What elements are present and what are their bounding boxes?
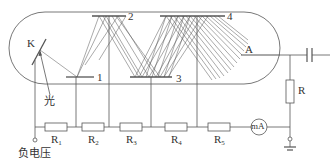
resistor-r5 — [208, 123, 230, 131]
pmt-diagram: K 1 2 3 4 A 光 负电压 R mA R1 R2 R3 R4 R5 — [0, 0, 332, 164]
dynode-1-label: 1 — [97, 72, 103, 83]
resistor-r5-label: R5 — [214, 134, 225, 147]
negative-voltage-label: 负电压 — [18, 148, 51, 159]
resistor-r2-label: R2 — [88, 134, 99, 147]
cathode-label: K — [27, 38, 35, 49]
negative-voltage-terminal — [33, 138, 37, 142]
anode-label: A — [245, 44, 253, 55]
electron-paths — [40, 16, 248, 80]
load-resistor-r — [286, 80, 294, 103]
resistor-r3-label: R3 — [126, 134, 137, 147]
dynode-3-label: 3 — [176, 73, 182, 84]
diagram-drawing — [0, 0, 332, 164]
light-ray — [40, 52, 50, 95]
resistor-r2 — [82, 123, 104, 131]
light-label: 光 — [44, 96, 55, 107]
dynode-4-label: 4 — [227, 11, 233, 22]
ground-terminal — [288, 137, 292, 141]
ammeter-label: mA — [251, 122, 265, 131]
resistor-r1 — [45, 123, 67, 131]
load-resistor-label: R — [298, 85, 305, 96]
resistor-r3 — [120, 123, 142, 131]
resistor-r4-label: R4 — [171, 134, 182, 147]
resistor-r4 — [165, 123, 187, 131]
resistor-r1-label: R1 — [51, 134, 62, 147]
dynode-2-label: 2 — [128, 11, 134, 22]
